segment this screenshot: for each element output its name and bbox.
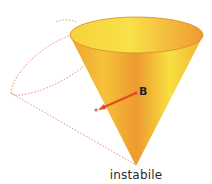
point-b-label: B <box>139 85 147 98</box>
unstable-cone-diagram: B instabile <box>0 0 212 184</box>
cone-top <box>70 17 203 53</box>
cone-illustration <box>0 0 212 184</box>
caption-label: instabile <box>96 168 176 182</box>
cone-body <box>70 36 203 166</box>
